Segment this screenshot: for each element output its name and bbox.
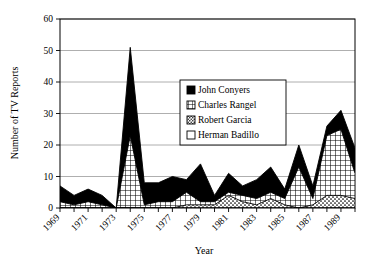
y-tick-label: 50 <box>44 46 54 56</box>
legend-swatch-charles-rangel <box>187 101 195 109</box>
y-tick-label: 10 <box>44 172 54 182</box>
legend-swatch-herman-badillo <box>187 131 195 139</box>
legend-label-robert-garcia: Robert Garcia <box>198 115 252 125</box>
legend-label-herman-badillo: Herman Badillo <box>198 130 259 140</box>
chart-legend: John ConyersCharles RangelRobert GarciaH… <box>180 80 286 145</box>
legend-swatch-robert-garcia <box>187 116 195 124</box>
y-tick-label: 30 <box>44 109 54 119</box>
y-tick-label: 60 <box>44 14 54 24</box>
y-tick-label: 20 <box>44 140 54 150</box>
chart-container: 0102030405060 19691971197319751977197919… <box>0 0 374 263</box>
x-axis-title: Year <box>195 245 214 256</box>
y-axis-title: Number of TV Reports <box>9 67 20 160</box>
tv-reports-stacked-area-chart: 0102030405060 19691971197319751977197919… <box>0 0 374 263</box>
y-tick-label: 0 <box>48 203 53 213</box>
legend-label-charles-rangel: Charles Rangel <box>198 100 257 110</box>
y-tick-label: 40 <box>44 77 54 87</box>
legend-swatch-john-conyers <box>187 86 195 94</box>
legend-label-john-conyers: John Conyers <box>198 85 250 95</box>
